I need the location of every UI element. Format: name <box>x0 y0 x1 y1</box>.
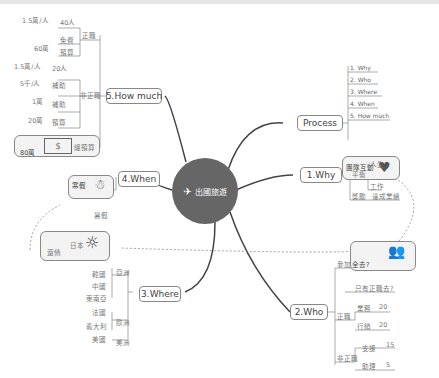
why-label: 1.Why <box>307 170 336 180</box>
howmuch-row-key: 40人 <box>60 20 75 27</box>
why-item: 達成業績 <box>372 194 400 201</box>
howmuch-label: 5.How much <box>106 91 162 101</box>
country: 東南亞 <box>86 296 107 303</box>
why-item: 工作 <box>370 184 384 191</box>
who-parttime: 非正職 <box>337 356 358 363</box>
howmuch-row-key: 預算 <box>60 50 74 57</box>
howmuch-row-value: 1萬 <box>32 99 43 106</box>
why-item: 人生 <box>370 162 384 169</box>
process-item[interactable]: 5. How much <box>350 113 389 119</box>
process-item[interactable]: 4. When <box>350 101 375 107</box>
who-fulltime: 正職 <box>337 314 351 321</box>
howmuch-row-key: 補助 <box>52 83 66 90</box>
who-row-value: 5 <box>386 362 390 369</box>
who-join-sub: 只有正職去? <box>355 286 393 293</box>
country: 法國 <box>92 310 106 317</box>
sun-icon: ☼ <box>85 235 99 251</box>
total-budget-value: 80萬 <box>20 150 35 157</box>
who-row-value: 20 <box>379 304 387 311</box>
howmuch-row-value: 5千/人 <box>20 81 40 88</box>
howmuch-row-key: 免費 <box>60 38 74 45</box>
winter-card-label: 寒假 <box>72 183 86 190</box>
process-item[interactable]: 2. Who <box>350 77 371 83</box>
where-label: 3.Where <box>141 289 179 299</box>
center-label: 出國旅遊 <box>195 186 227 197</box>
howmuch-node[interactable]: 5.How much <box>106 88 162 104</box>
who-row-key: 助理 <box>362 364 376 371</box>
country: 中國 <box>92 284 106 291</box>
money-icon: $ <box>44 138 72 154</box>
region-label: 亞洲 <box>116 270 130 277</box>
howmuch-parttime: 非正職 <box>80 93 101 100</box>
why-node[interactable]: 1.Why <box>300 167 342 183</box>
airplane-icon: ✈ <box>183 186 191 197</box>
snowman-icon: ☃ <box>94 178 106 191</box>
howmuch-fulltime: 正職 <box>82 33 96 40</box>
people-icon: 👥 <box>388 244 405 258</box>
why-group: 獎勵 <box>352 194 366 201</box>
who-row-value: 15 <box>386 342 394 349</box>
when-sub: 暑假 <box>94 213 108 220</box>
process-item[interactable]: 3. Where <box>350 89 377 95</box>
why-group: 平衡 <box>352 172 366 179</box>
who-join: 參加 <box>337 262 351 269</box>
total-budget-label: 總預算 <box>74 145 95 152</box>
howmuch-row-value: 1.5萬/人 <box>22 18 49 25</box>
process-node[interactable]: Process <box>297 115 343 131</box>
country: 韓國 <box>92 272 106 279</box>
howmuch-row-key: 20人 <box>52 66 67 73</box>
where-node[interactable]: 3.Where <box>139 286 181 302</box>
howmuch-row-value: 20萬 <box>28 118 43 125</box>
region-label: 歐洲 <box>116 320 130 327</box>
howmuch-row-value: 1.5萬/人 <box>14 64 41 71</box>
region-label: 美洲 <box>116 340 130 347</box>
howmuch-row-key: 補助 <box>52 102 66 109</box>
who-label: 2.Who <box>295 307 324 317</box>
japan-card-side: 還債 <box>47 250 61 257</box>
who-row-key: 行銷 <box>357 324 371 331</box>
when-node[interactable]: 4.When <box>118 171 160 187</box>
process-item[interactable]: 1. Why <box>350 65 371 71</box>
when-label: 4.When <box>122 174 156 184</box>
people-card-label: 全去? <box>352 262 369 269</box>
who-row-key: 業務 <box>357 306 371 313</box>
who-node[interactable]: 2.Who <box>290 304 328 320</box>
process-label: Process <box>303 118 337 128</box>
howmuch-row-key: 預算 <box>52 120 66 127</box>
japan-card-label: 日本 <box>70 243 84 250</box>
country: 美國 <box>92 337 106 344</box>
who-row-key: 支援 <box>362 346 376 353</box>
howmuch-row-value: 60萬 <box>34 46 49 53</box>
country: 義大利 <box>86 324 107 331</box>
who-row-value: 20 <box>379 322 387 329</box>
center-topic[interactable]: ✈ 出國旅遊 <box>172 158 238 224</box>
